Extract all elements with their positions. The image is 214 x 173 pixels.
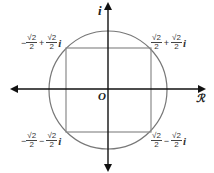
imaginary-unit: i xyxy=(58,135,61,147)
denominator: 2 xyxy=(174,141,178,149)
fraction: √22 xyxy=(151,132,162,149)
operator: − xyxy=(39,136,44,146)
operator: − xyxy=(164,136,169,146)
real-axis-label: ℛ xyxy=(196,92,205,105)
denominator: 2 xyxy=(29,141,33,149)
point-label-q1: √22 + √22 i xyxy=(151,34,186,51)
fraction: √22 xyxy=(151,34,162,51)
imaginary-axis-label: i xyxy=(98,3,102,19)
denominator: 2 xyxy=(174,43,178,51)
point-label-q2: − √22 + √22 i xyxy=(21,34,61,51)
imaginary-unit: i xyxy=(183,37,186,49)
imaginary-unit: i xyxy=(183,135,186,147)
fraction: √22 xyxy=(26,132,37,149)
denominator: 2 xyxy=(50,43,54,51)
fraction: √22 xyxy=(171,34,182,51)
point-label-q4: √22 − √22 i xyxy=(151,132,186,149)
fraction: √22 xyxy=(171,132,182,149)
origin-label: O xyxy=(98,90,106,102)
complex-plane-diagram: i ℛ O − √22 + √22 i √22 + √22 i − √22 − … xyxy=(0,0,214,173)
fraction: √22 xyxy=(46,34,57,51)
denominator: 2 xyxy=(154,43,158,51)
fraction: √22 xyxy=(46,132,57,149)
operator: + xyxy=(164,38,169,48)
point-label-q3: − √22 − √22 i xyxy=(21,132,61,149)
denominator: 2 xyxy=(29,43,33,51)
denominator: 2 xyxy=(50,141,54,149)
imaginary-unit: i xyxy=(58,37,61,49)
denominator: 2 xyxy=(154,141,158,149)
operator: + xyxy=(39,38,44,48)
fraction: √22 xyxy=(26,34,37,51)
